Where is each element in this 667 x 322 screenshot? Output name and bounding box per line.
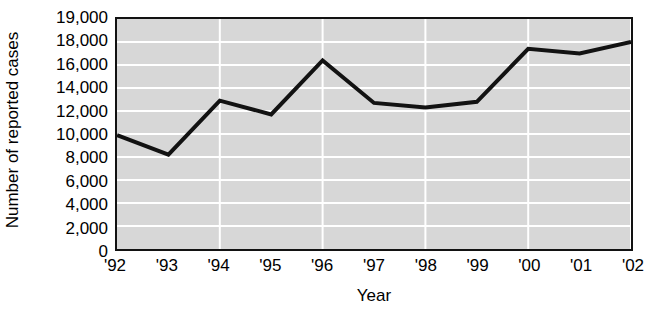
- x-axis-tick-label: '94: [208, 255, 230, 277]
- y-axis-tick-label: 10,000: [56, 126, 108, 143]
- y-axis-tick-label: 12,000: [56, 102, 108, 119]
- x-axis-tick-label: '01: [570, 255, 592, 277]
- line-chart-figure: Number of reported cases 19,00018,00016,…: [0, 0, 667, 322]
- x-axis-tick-label: '93: [156, 255, 178, 277]
- y-axis-tick-label: 2,000: [65, 219, 108, 236]
- y-axis-tick-labels: 19,00018,00016,00014,00012,00010,0008,00…: [26, 0, 112, 322]
- plot-svg: [117, 19, 631, 249]
- x-axis-tick-label: '97: [363, 255, 385, 277]
- y-axis-tick-label: 16,000: [56, 55, 108, 72]
- y-axis-tick-label: 18,000: [56, 32, 108, 49]
- x-axis-tick-label: '92: [104, 255, 126, 277]
- y-axis-tick-label: 14,000: [56, 79, 108, 96]
- x-axis-tick-label: '00: [518, 255, 540, 277]
- y-axis-tick-label: 6,000: [65, 172, 108, 189]
- x-axis-tick-label: '02: [622, 255, 644, 277]
- x-axis-tick-labels: '92'93'94'95'96'97'98'99'00'01'02: [115, 255, 633, 281]
- y-axis-title: Number of reported cases: [0, 0, 26, 260]
- x-axis-title: Year: [115, 286, 633, 306]
- y-axis-tick-label: 4,000: [65, 196, 108, 213]
- x-axis-tick-label: '96: [311, 255, 333, 277]
- y-axis-tick-label: 19,000: [56, 9, 108, 26]
- y-axis-tick-label: 8,000: [65, 149, 108, 166]
- x-axis-tick-label: '95: [259, 255, 281, 277]
- x-axis-tick-label: '99: [467, 255, 489, 277]
- x-axis-tick-label: '98: [415, 255, 437, 277]
- data-line-reported-cases: [117, 42, 631, 155]
- plot-area: [115, 17, 633, 251]
